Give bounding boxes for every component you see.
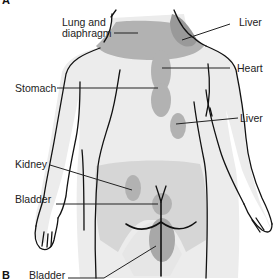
label-liver-upper: Liver <box>239 16 262 28</box>
label-heart: Heart <box>237 62 263 74</box>
referred-pain-diagram: A <box>0 0 278 280</box>
label-bladder-lower: Bladder <box>29 269 66 280</box>
panel-label-b: B <box>2 269 10 280</box>
panel-label-a: A <box>2 0 10 6</box>
label-kidney: Kidney <box>15 158 48 170</box>
kidney-region <box>125 175 141 201</box>
label-bladder-upper: Bladder <box>15 193 52 205</box>
liver-lower-region <box>170 113 186 139</box>
label-liver-lower: Liver <box>240 112 263 124</box>
label-stomach: Stomach <box>15 82 57 94</box>
bladder-lower-region <box>149 218 175 262</box>
label-diaphragm: diaphragm <box>62 27 112 39</box>
